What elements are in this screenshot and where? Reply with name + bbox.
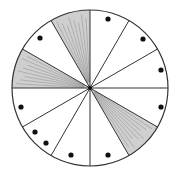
dot xyxy=(158,67,163,72)
dot xyxy=(43,140,48,145)
dot xyxy=(105,16,110,21)
shaded-sector-300-330 xyxy=(90,88,158,156)
dot xyxy=(18,104,23,109)
dot xyxy=(68,152,73,157)
dot xyxy=(32,129,37,134)
dot xyxy=(37,35,42,40)
center-point xyxy=(88,86,92,90)
circle-svg xyxy=(0,0,179,175)
dot xyxy=(105,152,110,157)
dot xyxy=(158,104,163,109)
fraction-circle-diagram xyxy=(0,0,179,175)
dot xyxy=(140,36,145,41)
